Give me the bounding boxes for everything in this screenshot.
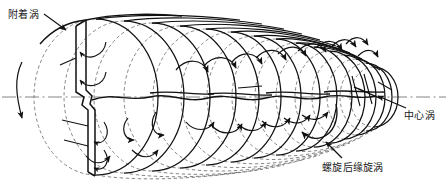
helical-vortex-leader: [326, 142, 342, 158]
blade-root-section-lines: [60, 58, 88, 146]
label-attached-vortex: 附着涡: [8, 9, 39, 20]
label-center-vortex: 中心涡: [404, 110, 435, 121]
figure-canvas: 附着涡 中心涡 螺旋后缘旋涡: [0, 0, 448, 193]
rotation-direction-arrow: [17, 62, 22, 118]
blade-outline-upper-edge: [40, 14, 182, 44]
attached-vortex-leader: [44, 14, 66, 30]
label-helical-trailing-edge-vortex: 螺旋后缘旋涡: [322, 162, 384, 173]
hub-detail-lines: [238, 74, 392, 106]
attached-vortex-circulation-arrows: [80, 42, 107, 169]
propeller-blade: [76, 20, 95, 176]
